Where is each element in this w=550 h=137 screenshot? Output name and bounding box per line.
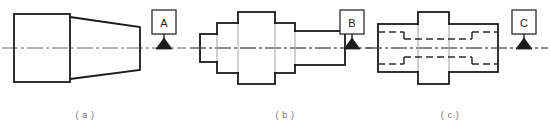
datum-a-letter: A (160, 17, 168, 29)
datum-symbol-c[interactable]: C (512, 10, 536, 49)
drawing-sheet: A B (0, 0, 550, 137)
caption-part-b: ( b ) (260, 110, 310, 120)
caption-part-a: ( a ) (60, 110, 110, 120)
datum-symbol-a[interactable]: A (152, 10, 176, 49)
datum-b-letter: B (348, 17, 355, 29)
datum-c-letter: C (520, 17, 528, 29)
datum-c-triangle (516, 38, 532, 49)
caption-part-c: ( c ) (425, 110, 475, 120)
datum-a-triangle (156, 38, 172, 49)
part-c-group: C (366, 10, 548, 84)
datum-b-triangle (344, 38, 360, 49)
datum-symbol-b[interactable]: B (340, 10, 364, 49)
part-b-group: B (190, 10, 372, 84)
part-a-group: A (2, 10, 186, 82)
